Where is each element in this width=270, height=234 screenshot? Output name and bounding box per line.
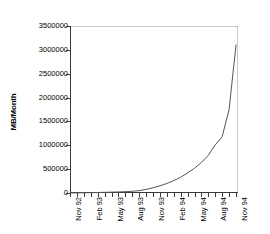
y-axis-tick-label: 2500000 (20, 70, 68, 78)
series-polyline (70, 45, 236, 193)
y-axis-tick-label: 1500000 (20, 117, 68, 125)
data-series-line (70, 26, 238, 193)
y-axis-tick-label: 1000000 (20, 141, 68, 149)
y-axis-tick-label: 3000000 (20, 46, 68, 54)
y-axis-title: MB/Month (7, 72, 21, 152)
x-axis-tick-label: Aug 94 (219, 197, 228, 234)
y-axis-tick-label: 2000000 (20, 94, 68, 102)
x-axis-tick-label: May 93 (116, 197, 125, 234)
x-axis-tick-label: Nov 92 (74, 197, 83, 234)
x-axis-tick-label: Nov 94 (240, 197, 249, 234)
y-axis-tick-label: 0 (20, 189, 68, 197)
y-axis-tick-label: 500000 (20, 165, 68, 173)
chart-container: MB/Month 3500000300000025000002000000150… (0, 0, 270, 234)
x-axis-tick-label: Feb 94 (178, 197, 187, 234)
plot-area (70, 26, 238, 193)
x-axis-tick-labels: Nov 92Feb 93May 93Aug 93Nov 93Feb 94May … (70, 197, 245, 234)
y-axis-tick-label: 3500000 (20, 22, 68, 30)
y-axis-tick-labels: 3500000300000025000002000000150000010000… (20, 22, 68, 196)
x-axis-tick-label: May 94 (199, 197, 208, 234)
x-axis-tick-label: Nov 93 (157, 197, 166, 234)
x-axis-tick-label: Feb 93 (95, 197, 104, 234)
x-axis-tick-label: Aug 93 (136, 197, 145, 234)
